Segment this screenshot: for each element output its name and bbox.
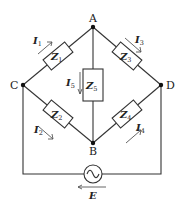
svg-text:I2: I2: [33, 124, 43, 137]
svg-text:I3: I3: [134, 34, 144, 47]
svg-text:E: E: [88, 190, 97, 201]
bridge-circuit-diagram: Z1 Z3 Z2 Z4 Z5 I1 I3 I2 I4: [0, 0, 186, 204]
current-arrow-i4: I4: [126, 122, 145, 143]
node-label-d: D: [166, 79, 175, 92]
node-label-b: B: [89, 145, 97, 158]
impedance-z5: Z5: [83, 69, 103, 101]
ac-source: E: [78, 165, 106, 201]
impedance-z2: Z2: [40, 100, 73, 132]
node-label-a: A: [88, 12, 98, 25]
svg-text:I4: I4: [135, 122, 145, 135]
node-d: [159, 83, 163, 87]
current-arrow-i2: I2: [33, 124, 53, 139]
node-a: [91, 25, 95, 29]
impedance-z3: Z3: [109, 42, 142, 74]
svg-text:I1: I1: [32, 35, 42, 48]
current-arrow-i1: I1: [32, 35, 52, 54]
impedance-z1: Z1: [42, 40, 75, 72]
current-arrow-i5: I5: [65, 72, 82, 94]
svg-text:I5: I5: [65, 77, 75, 90]
node-label-c: C: [10, 79, 18, 92]
node-c: [21, 83, 25, 87]
